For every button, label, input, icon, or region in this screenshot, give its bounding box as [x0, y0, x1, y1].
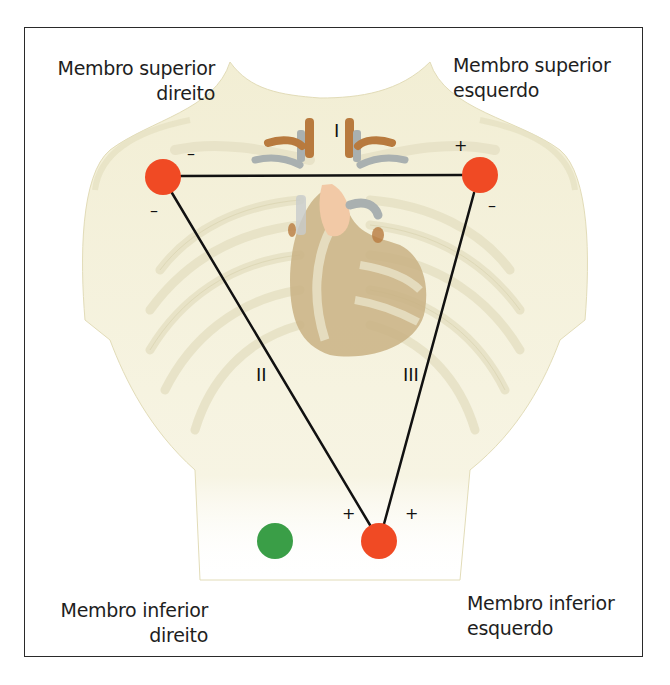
label-right-arm: Membro superior direito	[30, 56, 215, 106]
polarity-lead-III-left-leg: +	[405, 506, 418, 522]
polarity-lead-II-left-leg: +	[342, 506, 355, 522]
label-left-leg-line1: Membro inferior	[467, 591, 647, 616]
lead-I-line	[181, 175, 462, 176]
lead-III-label: III	[403, 366, 419, 384]
electrode-left-leg	[361, 523, 397, 559]
label-left-leg: Membro inferior esquerdo	[467, 591, 647, 641]
label-right-arm-line2: direito	[30, 81, 215, 106]
polarity-lead-II-right-arm: –	[150, 203, 158, 219]
label-left-arm: Membro superior esquerdo	[453, 53, 643, 103]
label-left-leg-line2: esquerdo	[467, 616, 647, 641]
label-right-leg-line1: Membro inferior	[30, 598, 208, 623]
label-left-arm-line1: Membro superior	[453, 53, 643, 78]
label-right-leg: Membro inferior direito	[30, 598, 208, 648]
label-left-arm-line2: esquerdo	[453, 78, 643, 103]
electrode-right-leg-ground	[257, 523, 293, 559]
polarity-lead-I-left-arm: +	[454, 138, 467, 154]
polarity-lead-III-left-arm: –	[488, 198, 496, 214]
electrode-left-arm	[462, 157, 498, 193]
polarity-lead-I-right-arm: –	[187, 146, 195, 162]
lead-II-label: II	[256, 366, 267, 384]
electrode-right-arm	[145, 159, 181, 195]
lead-I-label: I	[334, 122, 339, 140]
label-right-arm-line1: Membro superior	[30, 56, 215, 81]
label-right-leg-line2: direito	[30, 623, 208, 648]
